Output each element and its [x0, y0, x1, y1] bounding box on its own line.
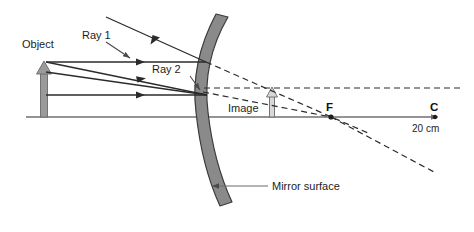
- label-ray-2: Ray 2: [152, 63, 181, 75]
- ray-1-reflected-arrowhead: [151, 35, 161, 45]
- dashed-ray-1-extension: [206, 62, 368, 133]
- ray-diagram: Object Ray 1 Ray 2 Image F C 20 cm Mirro…: [0, 0, 474, 232]
- label-ray-1: Ray 1: [82, 29, 111, 41]
- ray-2-incident: [46, 62, 207, 95]
- label-image: Image: [228, 102, 259, 114]
- ray-1-incident-arrowhead: [136, 59, 145, 66]
- center-of-curvature-dot: [433, 115, 437, 119]
- ray-parallel-lower-arrowhead: [136, 92, 145, 99]
- label-distance: 20 cm: [412, 123, 439, 134]
- object-arrow: [37, 61, 52, 117]
- focal-point-dot: [328, 114, 333, 119]
- label-focal-point: F: [326, 101, 333, 113]
- mirror-surface-shape: [195, 14, 232, 206]
- label-object: Object: [22, 38, 54, 50]
- label-center-of-curvature: C: [430, 101, 438, 113]
- ray-2-reflected: [46, 72, 207, 95]
- ray-1-leader-line: [106, 42, 130, 58]
- label-mirror-surface: Mirror surface: [272, 180, 340, 192]
- diagram-canvas: Object Ray 1 Ray 2 Image F C 20 cm Mirro…: [0, 0, 474, 232]
